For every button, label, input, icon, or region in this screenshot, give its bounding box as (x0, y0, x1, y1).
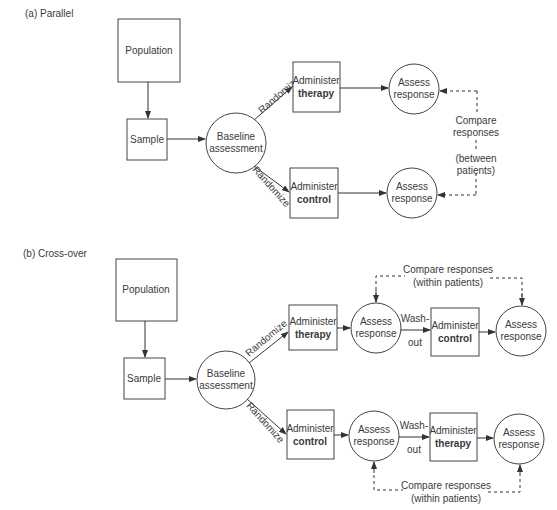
top-sequence: Administer therapy Assess response Wash-… (289, 264, 546, 356)
svg-text:response: response (500, 331, 542, 342)
svg-text:response: response (498, 439, 540, 450)
svg-text:therapy: therapy (435, 438, 472, 449)
svg-text:response: response (353, 436, 395, 447)
crossover-design: (b) Cross-over Population Sample Baselin… (23, 248, 546, 504)
svg-text:Administer: Administer (431, 320, 479, 331)
svg-text:(within patients): (within patients) (411, 493, 481, 504)
assess-response-bottom: Assess response (387, 168, 437, 218)
svg-text:Assess: Assess (503, 427, 535, 438)
svg-text:response: response (391, 193, 433, 204)
svg-text:(between: (between (455, 153, 496, 164)
svg-text:responses: responses (453, 127, 499, 138)
svg-text:Administer: Administer (290, 181, 338, 192)
sample-box: Sample (124, 358, 165, 399)
svg-text:Population: Population (122, 284, 169, 295)
svg-text:control: control (293, 436, 327, 447)
svg-text:Baseline: Baseline (217, 131, 256, 142)
svg-text:Baseline: Baseline (207, 368, 246, 379)
population-box: Population (118, 19, 180, 82)
randomize-label-bottom: Randomize (245, 400, 287, 445)
parallel-design: (a) Parallel Population Sample Baseline … (25, 8, 499, 218)
section-title-parallel: (a) Parallel (25, 8, 73, 19)
baseline-circle: Baseline assessment (197, 351, 255, 409)
svg-text:Administer: Administer (286, 423, 334, 434)
svg-text:Sample: Sample (130, 134, 164, 145)
compare-within-patients-top: Compare responses (within patients) (376, 264, 522, 305)
randomize-label-top: Randomize (243, 317, 289, 358)
svg-text:patients): patients) (457, 165, 495, 176)
washout-label: Wash- (400, 420, 429, 431)
svg-text:control: control (438, 333, 472, 344)
svg-text:Assess: Assess (360, 316, 392, 327)
population-box: Population (116, 259, 177, 321)
administer-control-box: Administer control (286, 410, 334, 459)
administer-control-box: Administer control (290, 168, 338, 218)
assess-response-1: Assess response (351, 303, 401, 353)
baseline-circle: Baseline assessment (206, 113, 266, 173)
svg-text:response: response (355, 328, 397, 339)
bottom-sequence: Administer control Assess response Wash-… (286, 410, 544, 504)
svg-text:(within patients): (within patients) (413, 277, 483, 288)
svg-text:therapy: therapy (298, 88, 335, 99)
study-design-diagram: (a) Parallel Population Sample Baseline … (0, 0, 557, 510)
svg-text:Assess: Assess (358, 424, 390, 435)
washout-label: out (408, 337, 422, 348)
svg-text:Assess: Assess (398, 77, 430, 88)
administer-therapy-box: Administer therapy (429, 413, 477, 461)
svg-text:therapy: therapy (295, 329, 332, 340)
svg-text:Assess: Assess (396, 181, 428, 192)
administer-therapy-box: Administer therapy (292, 62, 340, 112)
randomize-label-bottom: Randomize (251, 164, 293, 209)
administer-therapy-box: Administer therapy (289, 305, 337, 350)
svg-text:Compare: Compare (455, 115, 497, 126)
svg-text:Population: Population (125, 45, 172, 56)
assess-response-top: Assess response (389, 64, 439, 114)
administer-control-box: Administer control (431, 308, 479, 356)
assess-response-1: Assess response (349, 411, 399, 461)
section-title-crossover: (b) Cross-over (23, 248, 88, 259)
svg-text:Sample: Sample (127, 373, 161, 384)
washout-label: out (407, 444, 421, 455)
svg-text:response: response (393, 89, 435, 100)
svg-text:Administer: Administer (429, 425, 477, 436)
assess-response-2: Assess response (494, 414, 544, 464)
svg-text:assessment: assessment (209, 143, 263, 154)
compare-within-patients-bottom: Compare responses (within patients) (374, 462, 520, 504)
svg-text:Administer: Administer (292, 75, 340, 86)
sample-box: Sample (127, 119, 167, 160)
svg-text:Assess: Assess (505, 319, 537, 330)
svg-text:Compare responses: Compare responses (403, 264, 493, 275)
assess-response-2: Assess response (496, 306, 546, 356)
svg-text:assessment: assessment (199, 380, 253, 391)
svg-text:Administer: Administer (289, 316, 337, 327)
washout-label: Wash- (401, 313, 430, 324)
svg-text:Compare responses: Compare responses (401, 480, 491, 491)
svg-text:control: control (297, 194, 331, 205)
compare-between-patients: Compare responses (between patients) (438, 91, 499, 195)
